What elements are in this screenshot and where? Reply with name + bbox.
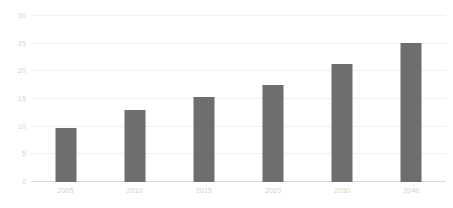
y-tick-label-10: 10 (0, 123, 26, 131)
bar-slot (100, 16, 169, 182)
bar-2015[interactable] (193, 97, 214, 182)
x-axis-labels: 200520102015202020302040 (31, 186, 446, 200)
bar-slot (31, 16, 100, 182)
bar-2010[interactable] (124, 110, 145, 182)
bar-2040[interactable] (401, 43, 422, 182)
bar-slot (308, 16, 377, 182)
bar-2005[interactable] (55, 128, 76, 182)
bar-group (31, 16, 446, 182)
y-tick-label-5: 5 (0, 150, 26, 158)
bar-slot (377, 16, 446, 182)
x-tick-label-2005: 2005 (36, 186, 96, 196)
bar-chart: 30 25 20 15 10 5 0 200520102015202020302… (0, 0, 453, 208)
x-tick-label-2030: 2030 (312, 186, 372, 196)
x-tick-label-2015: 2015 (174, 186, 234, 196)
x-tick-label-2010: 2010 (105, 186, 165, 196)
bar-slot (169, 16, 238, 182)
x-tick-label-2040: 2040 (381, 186, 441, 196)
y-axis-labels: 30 25 20 15 10 5 0 (0, 16, 26, 182)
y-tick-label-15: 15 (0, 95, 26, 103)
y-tick-label-0: 0 (0, 178, 26, 186)
bar-slot (239, 16, 308, 182)
plot-area (31, 16, 446, 182)
y-tick-label-25: 25 (0, 40, 26, 48)
y-tick-label-20: 20 (0, 67, 26, 75)
x-tick-label-2020: 2020 (243, 186, 303, 196)
bar-2030[interactable] (332, 64, 353, 182)
y-tick-label-30: 30 (0, 12, 26, 20)
bar-2020[interactable] (263, 85, 284, 182)
